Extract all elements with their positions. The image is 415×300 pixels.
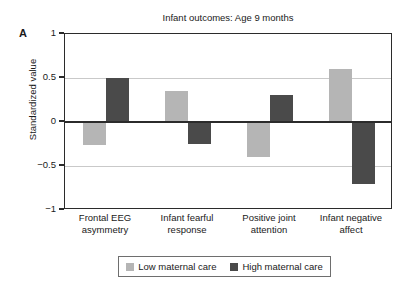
y-axis-tick-label: −0.5 bbox=[16, 160, 56, 170]
legend-label: High maternal care bbox=[242, 262, 322, 272]
y-axis-tick-label: 1 bbox=[16, 28, 56, 38]
x-axis-category-label: Infant negativeaffect bbox=[310, 212, 392, 235]
chart-title: Infant outcomes: Age 9 months bbox=[64, 13, 392, 23]
bar bbox=[188, 122, 211, 144]
bar bbox=[352, 122, 375, 184]
gridline bbox=[65, 166, 391, 167]
bar bbox=[270, 95, 293, 122]
x-axis-category-label-line: Infant negative bbox=[310, 212, 392, 224]
y-axis-tick-label: 0.5 bbox=[16, 72, 56, 82]
x-axis-category-label-line: attention bbox=[228, 224, 310, 236]
bar bbox=[329, 69, 352, 122]
bar bbox=[106, 78, 129, 122]
x-axis-category-label-line: asymmetry bbox=[64, 224, 146, 236]
y-axis-title: Standardized value bbox=[27, 30, 38, 170]
y-axis-tick-label: 0 bbox=[16, 116, 56, 126]
plot-area bbox=[64, 33, 392, 209]
x-axis-category-label-line: affect bbox=[310, 224, 392, 236]
x-axis-category-label-line: Positive joint bbox=[228, 212, 310, 224]
x-axis-category-label: Positive jointattention bbox=[228, 212, 310, 235]
bar bbox=[247, 122, 270, 157]
x-axis-category-label-line: response bbox=[146, 224, 228, 236]
plot-inner bbox=[65, 34, 391, 208]
bar bbox=[83, 122, 106, 145]
zero-line bbox=[65, 121, 391, 123]
y-axis-tick-label: −1 bbox=[16, 204, 56, 214]
chart-legend: Low maternal careHigh maternal care bbox=[118, 256, 331, 277]
figure-panel-a: A Infant outcomes: Age 9 months Standard… bbox=[0, 0, 415, 300]
bar bbox=[165, 91, 188, 122]
legend-entry: Low maternal care bbox=[126, 262, 216, 272]
legend-label: Low maternal care bbox=[138, 262, 216, 272]
legend-entry: High maternal care bbox=[230, 262, 322, 272]
x-axis-category-label: Infant fearfulresponse bbox=[146, 212, 228, 235]
legend-swatch-icon bbox=[230, 263, 238, 271]
x-axis-category-label: Frontal EEGasymmetry bbox=[64, 212, 146, 235]
x-axis-category-label-line: Infant fearful bbox=[146, 212, 228, 224]
x-axis-category-label-line: Frontal EEG bbox=[64, 212, 146, 224]
legend-swatch-icon bbox=[126, 263, 134, 271]
